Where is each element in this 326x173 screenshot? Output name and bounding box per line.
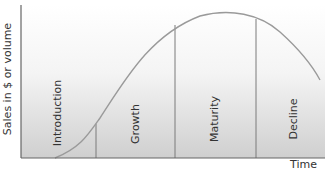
life-cycle-chart <box>0 0 326 173</box>
plot-background <box>21 5 325 158</box>
stage-label-growth: Growth <box>129 69 143 173</box>
y-axis-label: Sales in $ or volume <box>1 9 15 149</box>
stage-label-maturity: Maturity <box>208 64 222 173</box>
stage-label-introduction: Introduction <box>51 58 65 168</box>
stage-label-decline: Decline <box>287 64 301 173</box>
